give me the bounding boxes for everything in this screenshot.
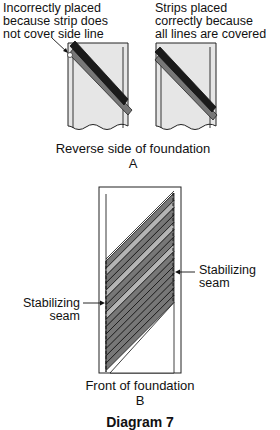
- label-line: seam: [20, 310, 80, 323]
- foundation-piece-correct: [155, 43, 217, 130]
- panel-a-caption: Reverse side of foundation: [0, 142, 266, 155]
- figure-title: Diagram 7: [0, 414, 280, 430]
- panel-b-caption: Front of foundation: [0, 379, 280, 392]
- foundation-piece-incorrect: [52, 38, 132, 130]
- panel-b-letter: B: [0, 394, 280, 407]
- uncovered-seam-gap: [68, 53, 73, 58]
- foundation-front: [83, 187, 195, 373]
- label-line: seam: [199, 277, 256, 290]
- panel-a-letter: A: [0, 157, 266, 170]
- left-stabilizing-seam-label: Stabilizing seam: [20, 297, 80, 323]
- right-stabilizing-seam-label: Stabilizing seam: [199, 264, 256, 290]
